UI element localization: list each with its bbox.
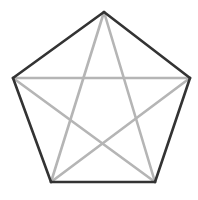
pentagram-figure — [0, 0, 198, 200]
